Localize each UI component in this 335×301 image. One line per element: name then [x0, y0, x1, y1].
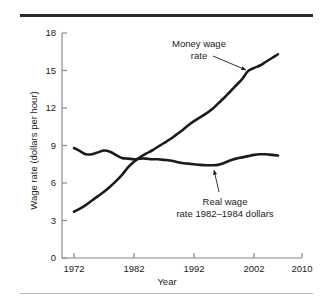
data-series-group — [74, 54, 278, 212]
y-tick-label: 12 — [36, 102, 56, 113]
x-tick-label: 1992 — [174, 263, 214, 274]
x-axis-title: Year — [122, 276, 212, 287]
y-tick-label: 9 — [36, 140, 56, 151]
axes-group — [62, 33, 302, 258]
figure-container: 0369121518 19721982199220022010 Wage rat… — [0, 0, 335, 301]
annotation-money-wage-line2: rate — [156, 50, 242, 62]
tick-marks-group — [62, 33, 302, 258]
annotation-real-wage-line1: Real wage — [160, 196, 290, 208]
annotation-real-wage: Real wage rate 1982–1984 dollars — [160, 196, 290, 219]
x-tick-label: 2010 — [282, 263, 322, 274]
y-tick-label: 18 — [36, 27, 56, 38]
y-axis-title: Wage rate (dollars per hour) — [28, 56, 39, 246]
series-line — [74, 148, 278, 165]
annotation-money-wage-line1: Money wage — [156, 38, 242, 50]
x-tick-label: 1972 — [54, 263, 94, 274]
annotation-real-wage-line2: rate 1982–1984 dollars — [160, 208, 290, 220]
annotation-arrows-group — [213, 56, 246, 192]
y-tick-label: 0 — [36, 252, 56, 263]
x-tick-label: 1982 — [114, 263, 154, 274]
y-tick-label: 6 — [36, 177, 56, 188]
y-tick-label: 15 — [36, 65, 56, 76]
x-tick-label: 2002 — [234, 263, 274, 274]
annotation-money-wage: Money wage rate — [156, 38, 242, 61]
annotation-arrow-real-wage-head — [213, 170, 217, 175]
y-tick-label: 3 — [36, 215, 56, 226]
series-line — [74, 54, 278, 212]
